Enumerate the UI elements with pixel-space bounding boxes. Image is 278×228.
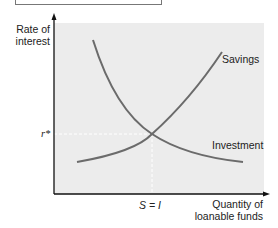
y-axis-label-line1: Rate of: [16, 24, 50, 36]
y-axis-arrow-icon: [52, 13, 57, 20]
savings-curve: [77, 52, 222, 162]
x-axis-arrow-icon: [263, 192, 270, 197]
x-axis-label-line1: Quantity of: [195, 199, 263, 211]
investment-label: Investment: [212, 140, 263, 152]
r-star-label: r*: [41, 128, 50, 140]
savings-label: Savings: [222, 54, 259, 66]
x-axis-label: Quantity of loanable funds: [195, 199, 263, 222]
x-axis-label-line2: loanable funds: [195, 211, 263, 223]
y-axis-label-line2: interest: [16, 36, 50, 48]
y-axis-label: Rate of interest: [16, 24, 50, 47]
s-eq-i-label: S = I: [139, 200, 161, 212]
